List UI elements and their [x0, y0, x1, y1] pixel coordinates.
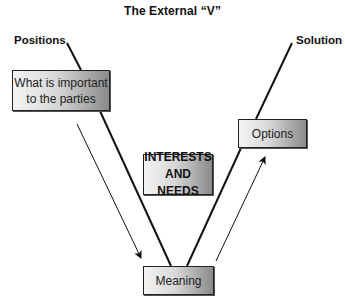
meaning-box: Meaning [143, 266, 214, 295]
options-box: Options [238, 119, 307, 148]
arrow-up-to-options [216, 157, 265, 261]
interests-and-needs-box: INTERESTS AND NEEDS [143, 154, 213, 195]
interests-box-line-1: INTERESTS [144, 149, 212, 166]
interests-box-line-2: AND NEEDS [144, 166, 212, 200]
important-box-line-2: to the parties [14, 91, 107, 107]
arrow-down-to-meaning [77, 124, 141, 258]
v-left-arm-top [67, 43, 81, 70]
v-right-arm-top [256, 43, 292, 119]
options-box-label: Options [252, 126, 293, 142]
important-box-line-1: What is important [14, 75, 107, 91]
important-to-parties-box: What is important to the parties [12, 70, 110, 111]
meaning-box-label: Meaning [155, 273, 201, 289]
